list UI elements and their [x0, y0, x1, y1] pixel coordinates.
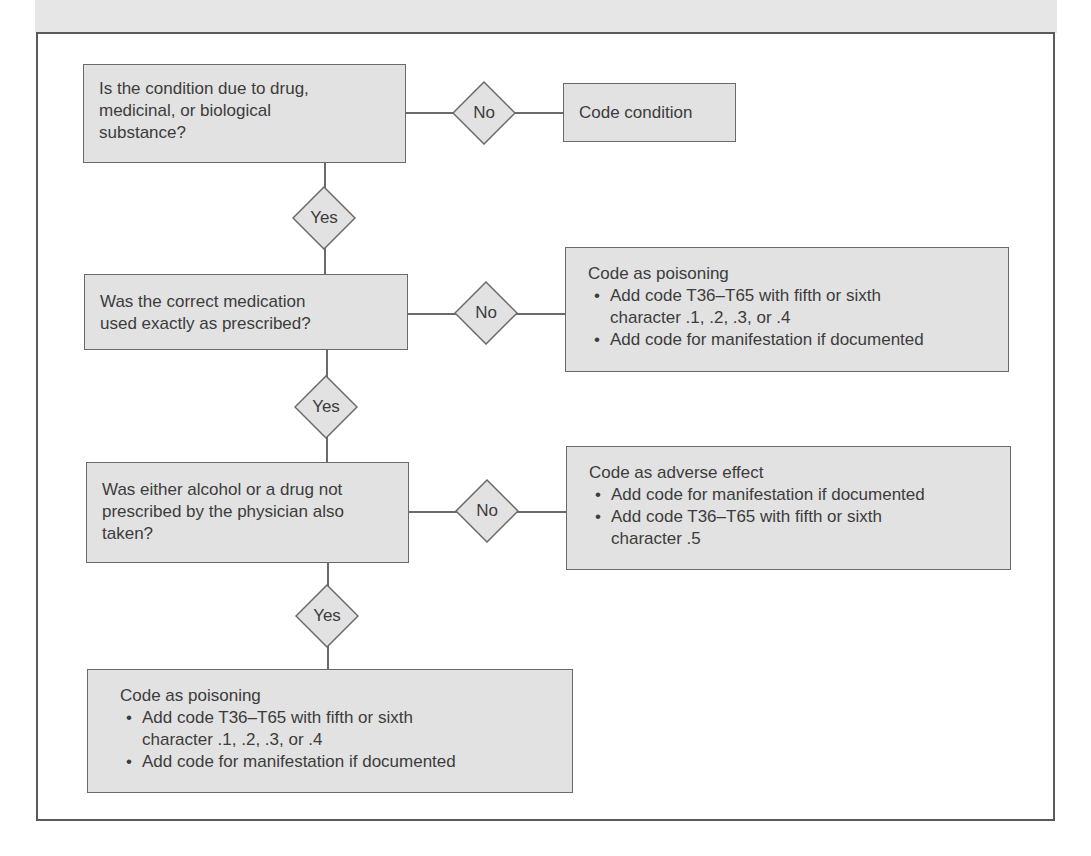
no-diamond-3: No	[455, 479, 519, 543]
outcome-bullet: Add code for manifestation if documented	[611, 484, 995, 506]
question-line: prescribed by the physician also	[102, 501, 393, 523]
yes-diamond-2: Yes	[294, 375, 358, 439]
no-diamond-2: No	[454, 281, 518, 345]
outcome-bullet: Add code T36–T65 with fifth or sixth cha…	[610, 285, 920, 329]
question-line: Is the condition due to drug,	[99, 78, 390, 100]
question-line: Was either alcohol or a drug not	[102, 479, 393, 501]
outcome-title: Code as poisoning	[588, 263, 993, 285]
yes-diamond-3: Yes	[295, 584, 359, 648]
outcome-bullet: Add code for manifestation if documented	[142, 751, 557, 773]
question-line: taken?	[102, 523, 393, 545]
outcome-adverse-effect: Code as adverse effect Add code for mani…	[566, 446, 1011, 570]
no-label: No	[452, 81, 516, 145]
outcome-bullet: Add code T36–T65 with fifth or sixth cha…	[142, 707, 452, 751]
outcome-poisoning-final: Code as poisoning Add code T36–T65 with …	[87, 669, 573, 793]
decision-box-2: Was the correct medication used exactly …	[84, 274, 408, 350]
outcome-title: Code as adverse effect	[589, 462, 995, 484]
no-label: No	[455, 479, 519, 543]
yes-label: Yes	[295, 584, 359, 648]
outcome-title: Code condition	[579, 102, 692, 124]
decision-box-1: Is the condition due to drug, medicinal,…	[83, 64, 406, 163]
yes-label: Yes	[294, 375, 358, 439]
top-gray-band	[35, 0, 1057, 33]
outcome-poisoning-1: Code as poisoning Add code T36–T65 with …	[565, 247, 1009, 372]
no-label: No	[454, 281, 518, 345]
question-line: used exactly as prescribed?	[100, 313, 392, 335]
outcome-title: Code as poisoning	[120, 685, 557, 707]
outcome-code-condition: Code condition	[563, 83, 736, 142]
question-line: medicinal, or biological	[99, 100, 390, 122]
yes-diamond-1: Yes	[292, 186, 356, 250]
no-diamond-1: No	[452, 81, 516, 145]
question-line: substance?	[99, 122, 390, 144]
outcome-bullet: Add code T36–T65 with fifth or sixth cha…	[611, 506, 921, 550]
decision-box-3: Was either alcohol or a drug not prescri…	[86, 462, 409, 563]
yes-label: Yes	[292, 186, 356, 250]
question-line: Was the correct medication	[100, 291, 392, 313]
outcome-bullet: Add code for manifestation if documented	[610, 329, 993, 351]
